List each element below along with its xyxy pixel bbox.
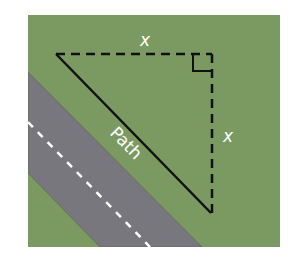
top-side-label: x — [139, 30, 151, 50]
right-side-label: x — [222, 126, 234, 146]
right-triangle-path-diagram: x x Path — [0, 0, 307, 262]
